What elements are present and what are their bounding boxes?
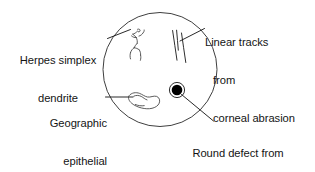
leader-lines — [106, 29, 214, 122]
dendrite-lesion — [130, 29, 144, 60]
linear-tracks-lesion — [173, 30, 186, 62]
linear-label-line-2: from — [205, 74, 313, 87]
geographic-label-line-2: epithelial — [2, 155, 107, 168]
corneal-defect-figure: Herpes simplex dendrite Linear tracks fr… — [0, 0, 315, 172]
round-defect-label: Round defect from foreign body or ulcera… — [163, 122, 313, 172]
leader-line-herpes — [108, 30, 131, 39]
leader-line-linear — [180, 29, 205, 42]
geographic-erosion-lesion — [129, 93, 160, 109]
geographic-erosion-label: Geographic epithelial erosion or chemica… — [2, 92, 107, 172]
geographic-label-line-1: Geographic — [2, 117, 107, 130]
herpes-label-line-1: Herpes simplex — [8, 54, 108, 67]
round-label-line-1: Round defect from — [163, 147, 313, 160]
linear-label-line-1: Linear tracks — [205, 36, 313, 49]
